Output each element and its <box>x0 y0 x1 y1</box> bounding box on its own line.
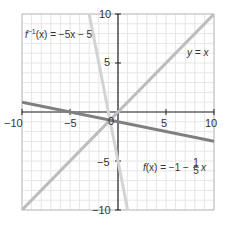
y-tick-label: −10 <box>92 204 111 216</box>
f-tail: x <box>200 162 207 173</box>
function-graph: −10 −5 0 5 10 10 5 −5 −10 f−1(x) = −5x −… <box>0 0 230 225</box>
f-equation-label: f(x) = −1 − <box>143 162 189 173</box>
x-tick-label: 5 <box>161 117 167 129</box>
y-tick-label: −5 <box>97 156 110 168</box>
finv-body: (x) = −5x − 5 <box>36 29 93 40</box>
y-tick-label: 10 <box>99 8 111 20</box>
finv-equation-label: f−1(x) = −5x − 5 <box>25 28 93 40</box>
x-tick-label: −5 <box>64 117 77 129</box>
f-frac-denominator: 5 <box>193 165 199 176</box>
y-tick-label: 5 <box>104 56 110 68</box>
x-tick-label: 10 <box>205 117 217 129</box>
identity-equation-label: y = x <box>186 47 209 58</box>
f-body: (x) = −1 − <box>146 162 189 173</box>
finv-superscript: −1 <box>28 28 36 35</box>
origin-label: 0 <box>108 115 114 127</box>
x-tick-label: −10 <box>4 117 23 129</box>
